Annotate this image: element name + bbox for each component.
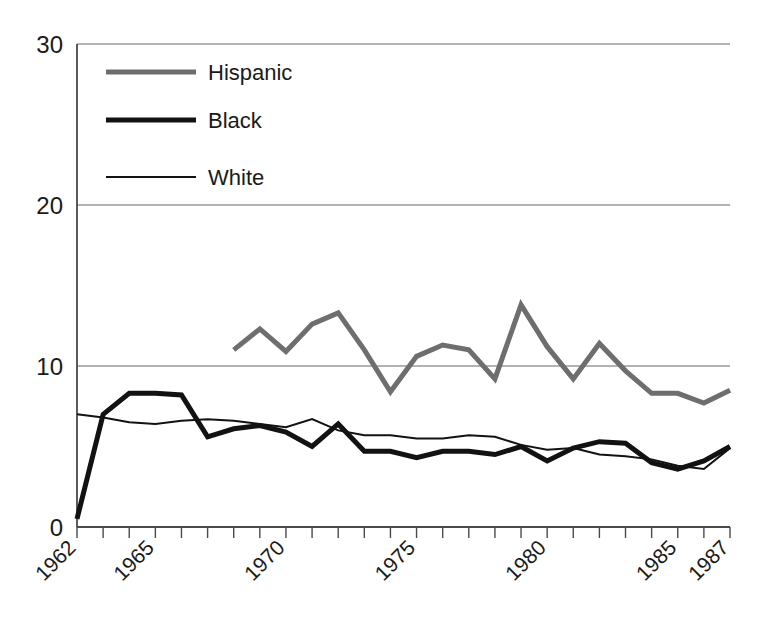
line-chart: 0102030 1962196519701975198019851987 His… xyxy=(0,0,774,617)
y-tick-label-20: 20 xyxy=(36,192,63,219)
y-tick-label-10: 10 xyxy=(36,353,63,380)
legend-label-black: Black xyxy=(208,108,263,133)
chart-container: 0102030 1962196519701975198019851987 His… xyxy=(0,0,774,617)
chart-background xyxy=(0,0,774,617)
y-tick-label-30: 30 xyxy=(36,31,63,58)
legend-label-white: White xyxy=(208,165,264,190)
legend-label-hispanic: Hispanic xyxy=(208,60,292,85)
